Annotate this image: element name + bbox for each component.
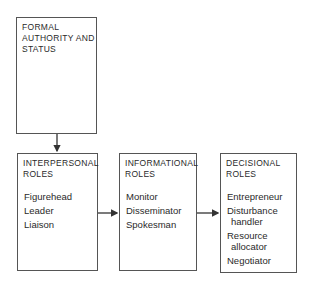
- box-title: INFORMATIONAL ROLES: [125, 158, 198, 180]
- role-item: Monitor: [126, 190, 181, 204]
- role-item: Spokesman: [126, 218, 181, 232]
- formal-authority-box: FORMAL AUTHORITY AND STATUS: [16, 17, 97, 134]
- informational-roles-box: INFORMATIONAL ROLES Monitor Disseminator…: [119, 153, 197, 271]
- role-item: Figurehead: [24, 190, 72, 204]
- box-title: FORMAL AUTHORITY AND STATUS: [22, 22, 95, 55]
- role-item: Leader: [24, 204, 72, 218]
- box-title: INTERPERSONAL ROLES: [23, 158, 99, 180]
- role-item: Negotiator: [227, 254, 282, 268]
- role-item-continued: allocator: [227, 240, 282, 254]
- interpersonal-roles-box: INTERPERSONAL ROLES Figurehead Leader Li…: [17, 153, 98, 271]
- box-title: DECISIONAL ROLES: [226, 158, 281, 180]
- role-item: Liaison: [24, 218, 72, 232]
- role-item: Entrepreneur: [227, 190, 282, 204]
- role-list: Entrepreneur Disturbance handler Resourc…: [227, 190, 282, 268]
- role-item: Disseminator: [126, 204, 181, 218]
- role-list: Monitor Disseminator Spokesman: [126, 190, 181, 232]
- role-list: Figurehead Leader Liaison: [24, 190, 72, 232]
- decisional-roles-box: DECISIONAL ROLES Entrepreneur Disturbanc…: [220, 153, 297, 273]
